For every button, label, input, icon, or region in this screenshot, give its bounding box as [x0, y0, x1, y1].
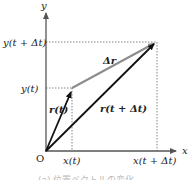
origin-label: O: [36, 153, 44, 164]
tick-x-t: x(t): [63, 155, 81, 166]
tick-y-t-dt: y(t + Δt): [2, 37, 47, 48]
r-t-label: r(t): [49, 104, 69, 115]
r-t-dt-label: r(t + Δt): [100, 103, 147, 114]
delta-r-label: Δr: [102, 55, 117, 66]
x-axis-label: x: [182, 145, 188, 156]
r-t-dt-vector: [46, 44, 154, 151]
position-vector-diagram: y x O y(t + Δt) y(t) x(t) x(t + Δt) r(t)…: [0, 0, 191, 180]
tick-y-t: y(t): [20, 83, 39, 94]
y-axis-label: y: [40, 0, 47, 11]
figure-caption: (a) 位置ベクトルの変化: [38, 174, 134, 180]
r-t-vector: [46, 92, 71, 151]
tick-x-t-dt: x(t + Δt): [133, 155, 177, 166]
